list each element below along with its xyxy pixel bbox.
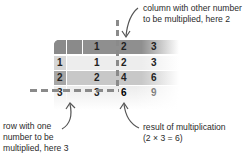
row-annotation: row with one number to be multiplied, he… (3, 121, 68, 154)
annotation-line: column with other number (143, 3, 242, 14)
annotation-line: result of multiplication (143, 122, 226, 133)
annotation-line: (2 × 3 = 6) (143, 133, 226, 144)
result-annotation: result of multiplication (2 × 3 = 6) (143, 122, 226, 144)
column-annotation: column with other number to be multiplie… (143, 3, 242, 25)
multiplication-diagram: 1 2 3 1 1 2 3 2 2 4 6 3 3 6 9 (0, 0, 249, 155)
annotation-line: number to be (3, 132, 68, 143)
annotation-line: multiplied, here 3 (3, 143, 68, 154)
annotation-line: row with one (3, 121, 68, 132)
annotation-line: to be multiplied, here 2 (143, 14, 242, 25)
